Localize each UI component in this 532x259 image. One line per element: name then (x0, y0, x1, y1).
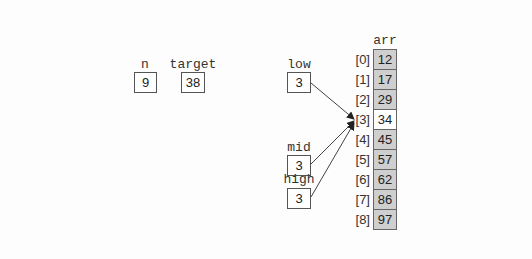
array-cell: 29 (373, 89, 397, 110)
low-arrow (311, 83, 354, 119)
array-cell: 17 (373, 69, 397, 90)
array-cell: 86 (373, 189, 397, 210)
array-index: [4] (350, 132, 370, 147)
array-index: [2] (350, 92, 370, 107)
array-index: [3] (350, 112, 370, 127)
array-cell: 62 (373, 169, 397, 190)
array-index: [0] (350, 52, 370, 67)
pointer-arrows (0, 0, 532, 259)
array-cell: 45 (373, 129, 397, 150)
mid-arrow (311, 121, 354, 164)
array-index: [1] (350, 72, 370, 87)
array-cell-highlighted: 34 (373, 109, 397, 130)
array-index: [8] (350, 212, 370, 227)
array-index: [6] (350, 172, 370, 187)
array-cell: 12 (373, 49, 397, 70)
array-cell: 97 (373, 209, 397, 230)
high-arrow (311, 123, 354, 197)
binary-search-diagram: n 9 target 38 low 3 mid 3 high 3 arr [0]… (0, 0, 532, 259)
array-cell: 57 (373, 149, 397, 170)
array-index: [5] (350, 152, 370, 167)
array-name-label: arr (371, 33, 399, 48)
array-index: [7] (350, 192, 370, 207)
